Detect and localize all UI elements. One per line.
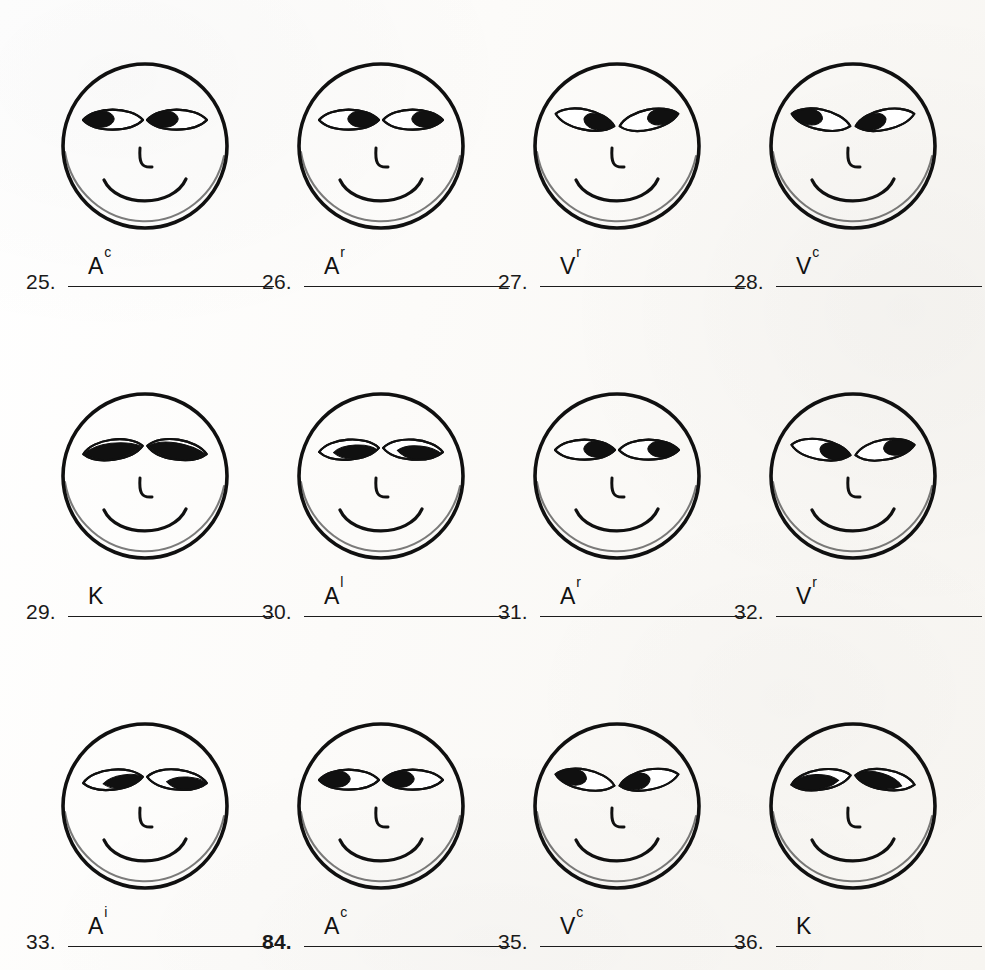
answer-area-29[interactable]: 29. K <box>22 562 268 626</box>
item-cell-29[interactable]: 29. K <box>22 366 268 666</box>
answer-sup-33: i <box>103 904 107 920</box>
item-cell-27[interactable]: 27. Vr <box>494 36 740 336</box>
answer-sup-36 <box>811 904 812 920</box>
answer-base-35: V <box>560 913 575 939</box>
face-28 <box>730 50 976 255</box>
answer-sup-29 <box>103 574 104 590</box>
answer-base-26: A <box>324 253 339 279</box>
answer-base-27: V <box>560 253 575 279</box>
item-cell-31[interactable]: 31. Ar <box>494 366 740 666</box>
answer-sup-32: r <box>811 574 817 590</box>
answer-rule-35[interactable] <box>540 946 746 947</box>
face-27 <box>494 50 740 255</box>
answer-area-25[interactable]: 25. Ac <box>22 232 268 296</box>
answer-area-32[interactable]: 32. Vr <box>730 562 976 626</box>
answer-area-30[interactable]: 30. Al <box>258 562 504 626</box>
question-number-27: 27. <box>498 270 528 294</box>
question-number-26: 26. <box>262 270 292 294</box>
question-number-36: 36. <box>734 930 764 954</box>
answer-mark-35: Vc <box>560 912 583 940</box>
answer-base-32: V <box>796 583 811 609</box>
item-cell-25[interactable]: 25. Ac <box>22 36 268 336</box>
answer-mark-34: Ac <box>324 912 347 940</box>
face-34 <box>258 710 504 915</box>
answer-mark-26: Ar <box>324 252 345 280</box>
question-number-32: 32. <box>734 600 764 624</box>
question-number-31: 31. <box>498 600 528 624</box>
face-29 <box>22 380 268 585</box>
worksheet-sheet: 25. Ac 26. Ar 27. Vr 28. <box>0 0 985 970</box>
answer-area-26[interactable]: 26. Ar <box>258 232 504 296</box>
answer-base-34: A <box>324 913 339 939</box>
answer-mark-31: Ar <box>560 582 581 610</box>
answer-area-27[interactable]: 27. Vr <box>494 232 740 296</box>
answer-area-28[interactable]: 28. Vc <box>730 232 976 296</box>
answer-mark-32: Vr <box>796 582 817 610</box>
answer-area-36[interactable]: 36. K <box>730 892 976 956</box>
answer-rule-28[interactable] <box>776 286 982 287</box>
answer-sup-25: c <box>103 244 111 260</box>
answer-base-29: K <box>88 583 103 609</box>
question-number-30: 30. <box>262 600 292 624</box>
answer-rule-31[interactable] <box>540 616 746 617</box>
answer-rule-26[interactable] <box>304 286 510 287</box>
face-33 <box>22 710 268 915</box>
answer-rule-36[interactable] <box>776 946 982 947</box>
answer-sup-30: l <box>339 574 343 590</box>
answer-sup-27: r <box>575 244 581 260</box>
answer-mark-27: Vr <box>560 252 581 280</box>
item-cell-36[interactable]: 36. K <box>730 696 976 970</box>
answer-area-34[interactable]: 84. Ac <box>258 892 504 956</box>
face-35 <box>494 710 740 915</box>
item-cell-34[interactable]: 84. Ac <box>258 696 504 970</box>
face-36 <box>730 710 976 915</box>
answer-sup-31: r <box>575 574 581 590</box>
face-25 <box>22 50 268 255</box>
answer-rule-33[interactable] <box>68 946 274 947</box>
answer-sup-34: c <box>339 904 347 920</box>
answer-mark-25: Ac <box>88 252 111 280</box>
item-cell-33[interactable]: 33. Ai <box>22 696 268 970</box>
answer-sup-26: r <box>339 244 345 260</box>
item-cell-32[interactable]: 32. Vr <box>730 366 976 666</box>
item-cell-35[interactable]: 35. Vc <box>494 696 740 970</box>
question-number-25: 25. <box>26 270 56 294</box>
answer-area-35[interactable]: 35. Vc <box>494 892 740 956</box>
item-cell-28[interactable]: 28. Vc <box>730 36 976 336</box>
question-number-29: 29. <box>26 600 56 624</box>
answer-rule-29[interactable] <box>68 616 274 617</box>
answer-base-28: V <box>796 253 811 279</box>
question-number-35: 35. <box>498 930 528 954</box>
face-31 <box>494 380 740 585</box>
answer-area-31[interactable]: 31. Ar <box>494 562 740 626</box>
answer-rule-27[interactable] <box>540 286 746 287</box>
answer-base-25: A <box>88 253 103 279</box>
face-30 <box>258 380 504 585</box>
item-cell-26[interactable]: 26. Ar <box>258 36 504 336</box>
answer-mark-30: Al <box>324 582 343 610</box>
answer-mark-36: K <box>796 912 812 940</box>
answer-sup-35: c <box>575 904 583 920</box>
answer-rule-32[interactable] <box>776 616 982 617</box>
question-number-34: 84. <box>262 930 292 954</box>
answer-base-30: A <box>324 583 339 609</box>
answer-mark-33: Ai <box>88 912 107 940</box>
item-cell-30[interactable]: 30. Al <box>258 366 504 666</box>
answer-base-33: A <box>88 913 103 939</box>
answer-rule-25[interactable] <box>68 286 274 287</box>
answer-mark-28: Vc <box>796 252 819 280</box>
face-32 <box>730 380 976 585</box>
question-number-33: 33. <box>26 930 56 954</box>
answer-rule-30[interactable] <box>304 616 510 617</box>
question-number-28: 28. <box>734 270 764 294</box>
answer-mark-29: K <box>88 582 104 610</box>
answer-area-33[interactable]: 33. Ai <box>22 892 268 956</box>
answer-rule-34[interactable] <box>304 946 510 947</box>
answer-base-36: K <box>796 913 811 939</box>
answer-base-31: A <box>560 583 575 609</box>
face-26 <box>258 50 504 255</box>
answer-sup-28: c <box>811 244 819 260</box>
